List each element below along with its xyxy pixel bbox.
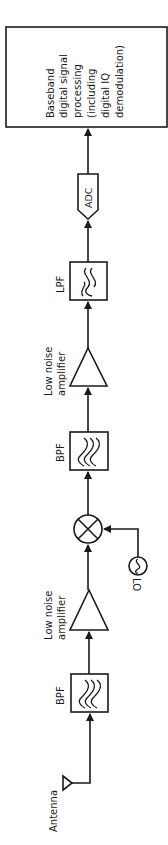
lna2-label-line1: Low noise — [43, 347, 54, 396]
lpf-block: LPF — [55, 262, 107, 300]
adc-label: ADC — [83, 187, 94, 208]
antenna-block: Antenna — [48, 776, 72, 832]
lna2-label-line2: amplifier — [56, 351, 67, 396]
dsp-line-1: Baseband — [45, 68, 56, 118]
dsp-block: Baseband digital signal processing (incl… — [6, 27, 167, 127]
lna2-block: Low noise amplifier — [43, 347, 107, 396]
bpf1-label: BPF — [55, 686, 66, 705]
bpf1-block: BPF — [55, 674, 108, 712]
connector-lo-mixer — [104, 529, 138, 557]
antenna-label: Antenna — [48, 790, 59, 832]
dsp-line-4: (including — [86, 69, 97, 118]
lna1-block: Low noise amplifier — [43, 590, 108, 640]
dsp-line-5: digital IQ — [100, 73, 111, 118]
adc-block: ADC — [78, 174, 98, 219]
connector-antenna-bpf1 — [72, 714, 90, 783]
dsp-line-6: demodulation) — [114, 45, 125, 118]
bpf2-label: BPF — [55, 443, 66, 462]
lo-label: LO — [131, 578, 142, 591]
dsp-line-2: digital signal — [58, 54, 69, 118]
lna1-label-line2: amplifier — [56, 595, 67, 640]
rf-receiver-block-diagram: Baseband digital signal processing (incl… — [0, 0, 168, 845]
dsp-line-3: processing — [72, 64, 83, 118]
antenna-icon — [63, 776, 72, 790]
lo-block: LO — [129, 557, 147, 591]
lpf-label: LPF — [55, 275, 66, 293]
mixer-block — [74, 515, 102, 543]
lna1-label-line1: Low noise — [43, 591, 54, 640]
bpf2-block: BPF — [55, 432, 108, 470]
